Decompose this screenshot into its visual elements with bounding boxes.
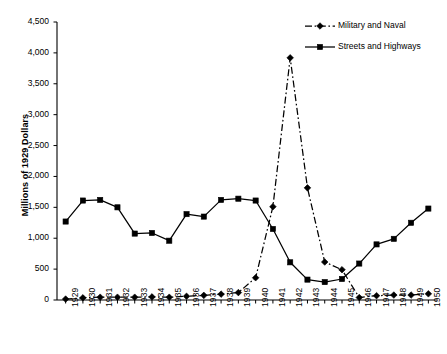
- plot-area: [0, 0, 447, 354]
- data-point-marker: [426, 206, 431, 211]
- data-point-marker: [167, 238, 172, 243]
- data-point-marker: [115, 205, 120, 210]
- data-point-marker: [391, 292, 398, 299]
- data-point-marker: [287, 55, 294, 62]
- data-point-marker: [357, 261, 362, 266]
- data-point-marker: [270, 203, 277, 210]
- data-point-marker: [63, 219, 68, 224]
- series-1: [62, 55, 431, 303]
- data-point-marker: [252, 274, 259, 281]
- data-point-marker: [321, 259, 328, 266]
- data-point-marker: [62, 296, 69, 303]
- chart-container: Millions of 1929 Dollars 05001,0001,5002…: [0, 0, 447, 354]
- data-point-marker: [183, 293, 190, 300]
- data-point-marker: [408, 220, 413, 225]
- data-point-marker: [339, 266, 346, 273]
- series-line: [66, 58, 429, 299]
- data-point-marker: [218, 291, 225, 298]
- data-point-marker: [391, 236, 396, 241]
- data-point-marker: [236, 196, 241, 201]
- series-line: [66, 199, 429, 282]
- data-point-marker: [425, 291, 432, 298]
- data-point-marker: [149, 294, 156, 301]
- data-point-marker: [201, 214, 206, 219]
- data-point-marker: [80, 198, 85, 203]
- data-point-marker: [98, 197, 103, 202]
- data-point-marker: [373, 292, 380, 299]
- data-point-marker: [339, 276, 344, 281]
- data-point-marker: [132, 231, 137, 236]
- data-point-marker: [149, 230, 154, 235]
- data-point-marker: [201, 292, 208, 299]
- data-point-marker: [218, 197, 223, 202]
- data-point-marker: [374, 242, 379, 247]
- data-point-marker: [304, 185, 311, 192]
- data-point-marker: [322, 279, 327, 284]
- data-point-marker: [288, 260, 293, 265]
- data-point-marker: [305, 277, 310, 282]
- data-point-marker: [408, 292, 415, 299]
- data-point-marker: [184, 212, 189, 217]
- data-point-marker: [270, 226, 275, 231]
- data-point-marker: [253, 198, 258, 203]
- series-2: [63, 196, 431, 285]
